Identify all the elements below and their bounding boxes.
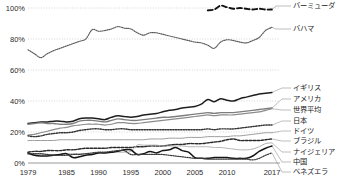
chart-canvas: 0%20%40%60%80%100% 197919851990199520002… xyxy=(0,0,348,183)
x-tick-label: 1990 xyxy=(90,168,107,177)
leader-line xyxy=(272,121,291,125)
y-axis-tick-labels: 0%20%40%60%80%100% xyxy=(6,4,26,168)
series-label: イギリス xyxy=(293,83,321,92)
leader-line xyxy=(272,88,291,92)
series-label: ベネズエラ xyxy=(293,167,328,176)
series-line xyxy=(28,27,272,58)
leader-line xyxy=(272,146,291,162)
x-axis-tick-labels: 19791985199019952000200520102017 xyxy=(20,168,281,177)
plot-area-series xyxy=(28,6,272,160)
series-label: 世界平均 xyxy=(293,105,321,114)
x-tick-label: 1985 xyxy=(58,168,75,177)
leader-line xyxy=(272,109,291,110)
series-label: ナイジェリア xyxy=(293,147,335,156)
leader-line xyxy=(272,99,291,108)
y-tick-label: 20% xyxy=(10,128,25,137)
x-tick-label: 2000 xyxy=(154,168,171,177)
leader-line xyxy=(272,27,291,29)
leader-line xyxy=(272,6,291,10)
series-label: 日本 xyxy=(293,116,308,125)
series-label: バハマ xyxy=(293,24,314,33)
series-line xyxy=(28,146,272,159)
line-chart: 0%20%40%60%80%100% 197919851990199520002… xyxy=(0,0,348,183)
y-tick-label: 60% xyxy=(10,66,25,75)
series-label: バーミューダ xyxy=(293,1,335,10)
series-label: ブラジル xyxy=(293,136,321,145)
x-tick-label: 2005 xyxy=(187,168,204,177)
series-line xyxy=(28,125,272,137)
series-label: 中国 xyxy=(293,157,307,166)
series-labels: バーミューダバハマイギリスアメリカ世界平均日本ドイツブラジルナイジェリア中国ベネ… xyxy=(293,1,335,176)
x-tick-label: 2017 xyxy=(264,168,281,177)
leader-line xyxy=(272,139,291,141)
y-tick-label: 100% xyxy=(6,4,26,13)
series-label: ドイツ xyxy=(293,126,314,135)
series-label: アメリカ xyxy=(293,94,321,103)
y-tick-label: 0% xyxy=(14,159,25,168)
x-tick-label: 1979 xyxy=(20,168,37,177)
leader-line xyxy=(272,131,291,133)
x-tick-label: 2010 xyxy=(219,168,236,177)
y-tick-label: 80% xyxy=(10,35,25,44)
series-leader-lines xyxy=(272,6,291,172)
x-tick-label: 1995 xyxy=(122,168,139,177)
series-line xyxy=(28,143,272,155)
y-tick-label: 40% xyxy=(10,97,25,106)
